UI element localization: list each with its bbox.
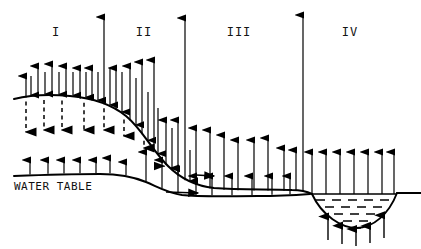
region-label-iii: III bbox=[227, 25, 252, 39]
region-label-iv: IV bbox=[342, 25, 358, 39]
figure-canvas: I II III IV WATER TABLE bbox=[0, 0, 421, 249]
recharge-up-arrow-group bbox=[26, 15, 394, 194]
region-label-i: I bbox=[52, 25, 60, 39]
lateral-flow-arrow bbox=[196, 175, 214, 176]
lakebed-upwelling-arrow-group bbox=[328, 215, 384, 246]
region-label-ii: II bbox=[136, 25, 152, 39]
water-table-label: WATER TABLE bbox=[14, 180, 92, 193]
